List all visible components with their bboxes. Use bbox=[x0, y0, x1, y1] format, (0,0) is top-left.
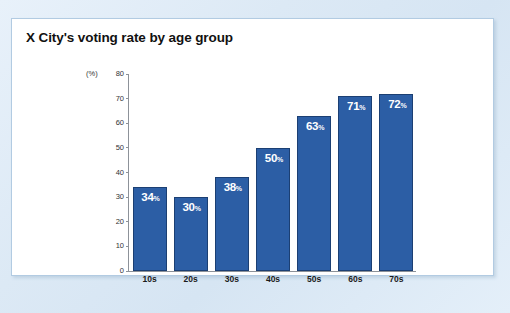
bar-slot: 30% bbox=[174, 74, 208, 271]
bar-value-percent-sign: % bbox=[318, 124, 324, 131]
x-axis-category-label: 50s bbox=[297, 273, 331, 285]
bar[interactable]: 38% bbox=[215, 177, 249, 271]
bar[interactable]: 71% bbox=[338, 96, 372, 271]
y-axis-tick-label: 10 bbox=[100, 242, 124, 250]
bar-value-percent-sign: % bbox=[359, 104, 365, 111]
x-axis-category-label: 60s bbox=[338, 273, 372, 285]
x-axis-category-label: 10s bbox=[133, 273, 167, 285]
y-axis-tick-label: 70 bbox=[100, 95, 124, 103]
bar[interactable]: 63% bbox=[297, 116, 331, 271]
bar-value-percent-sign: % bbox=[400, 102, 406, 109]
bar-value-label: 34% bbox=[134, 191, 168, 205]
x-axis-category-label: 30s bbox=[215, 273, 249, 285]
bar-value-number: 63 bbox=[306, 120, 318, 132]
bar-value-number: 72 bbox=[388, 98, 400, 110]
bar-value-label: 71% bbox=[339, 100, 373, 114]
bars-group: 34%30%38%50%63%71%72% bbox=[129, 74, 417, 271]
x-axis-labels: 10s20s30s40s50s60s70s bbox=[129, 273, 417, 287]
bar-value-label: 63% bbox=[298, 120, 332, 134]
bar-slot: 50% bbox=[256, 74, 290, 271]
bar-slot: 38% bbox=[215, 74, 249, 271]
bar-value-number: 71 bbox=[347, 100, 359, 112]
bar-value-number: 50 bbox=[265, 152, 277, 164]
x-axis-line bbox=[128, 271, 416, 272]
bar-value-percent-sign: % bbox=[236, 185, 242, 192]
bar-slot: 34% bbox=[133, 74, 167, 271]
bar-value-label: 30% bbox=[175, 201, 209, 215]
y-axis-tick-label: 80 bbox=[100, 70, 124, 78]
bar[interactable]: 72% bbox=[379, 94, 413, 271]
y-axis-tick-label: 50 bbox=[100, 144, 124, 152]
y-axis-tick-label: 40 bbox=[100, 169, 124, 177]
y-axis-unit-label: (%) bbox=[86, 69, 98, 78]
bar[interactable]: 30% bbox=[174, 197, 208, 271]
y-axis-tick-label: 0 bbox=[100, 267, 124, 275]
bar-value-percent-sign: % bbox=[277, 156, 283, 163]
x-axis-category-label: 70s bbox=[379, 273, 413, 285]
bar-value-percent-sign: % bbox=[154, 195, 160, 202]
bar-value-label: 50% bbox=[257, 152, 291, 166]
bar-value-label: 38% bbox=[216, 181, 250, 195]
x-axis-category-label: 40s bbox=[256, 273, 290, 285]
bar-slot: 72% bbox=[379, 74, 413, 271]
bar-slot: 71% bbox=[338, 74, 372, 271]
bar[interactable]: 50% bbox=[256, 148, 290, 271]
bar-chart: (%) 80706050403020100 34%30%38%50%63%71%… bbox=[12, 19, 495, 277]
bar-value-number: 38 bbox=[224, 181, 236, 193]
chart-card: X City's voting rate by age group (%) 80… bbox=[11, 18, 494, 276]
bar[interactable]: 34% bbox=[133, 187, 167, 271]
y-axis-tick-label: 20 bbox=[100, 218, 124, 226]
bar-value-number: 34 bbox=[141, 191, 153, 203]
y-axis-tick-label: 60 bbox=[100, 119, 124, 127]
y-axis-tick-label: 30 bbox=[100, 193, 124, 201]
bar-value-percent-sign: % bbox=[195, 205, 201, 212]
screenshot-root: X City's voting rate by age group (%) 80… bbox=[0, 0, 510, 313]
bar-value-number: 30 bbox=[182, 201, 194, 213]
x-axis-category-label: 20s bbox=[174, 273, 208, 285]
bar-value-label: 72% bbox=[380, 98, 414, 112]
bar-slot: 63% bbox=[297, 74, 331, 271]
